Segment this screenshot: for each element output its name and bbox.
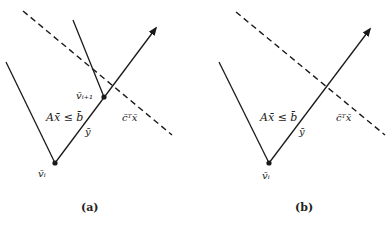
label-direction: ȳ [298,126,305,137]
label-constraint: Ax̄ ≤ b̄ [45,111,83,124]
panel-b: Ax̄ ≤ b̄ ȳ c̄ᵀx̄ v̄ᵢ (b) [219,12,385,214]
label-objective: c̄ᵀx̄ [122,112,138,123]
panel-a: v̄ᵢ₊₁ Ax̄ ≤ b̄ ȳ c̄ᵀx̄ v̄ᵢ (a) [6,11,172,214]
vertex-vi-dot [52,160,57,165]
polytope-edge-next [73,20,104,97]
diagram-canvas: v̄ᵢ₊₁ Ax̄ ≤ b̄ ȳ c̄ᵀx̄ v̄ᵢ (a) Ax̄ ≤ b̄ … [0,0,391,225]
ray-y [269,29,370,163]
label-objective: c̄ᵀx̄ [336,112,352,123]
label-constraint: Ax̄ ≤ b̄ [259,111,297,124]
label-vertex: v̄ᵢ [38,168,46,179]
label-vertex: v̄ᵢ [262,170,270,181]
caption-b: (b) [295,201,313,214]
label-direction: ȳ [84,126,91,137]
label-v-next: v̄ᵢ₊₁ [76,90,93,101]
vertex-vi-dot [266,160,271,165]
vertex-vi1-dot [101,94,106,99]
objective-hyperplane [236,12,385,135]
caption-a: (a) [81,201,99,214]
